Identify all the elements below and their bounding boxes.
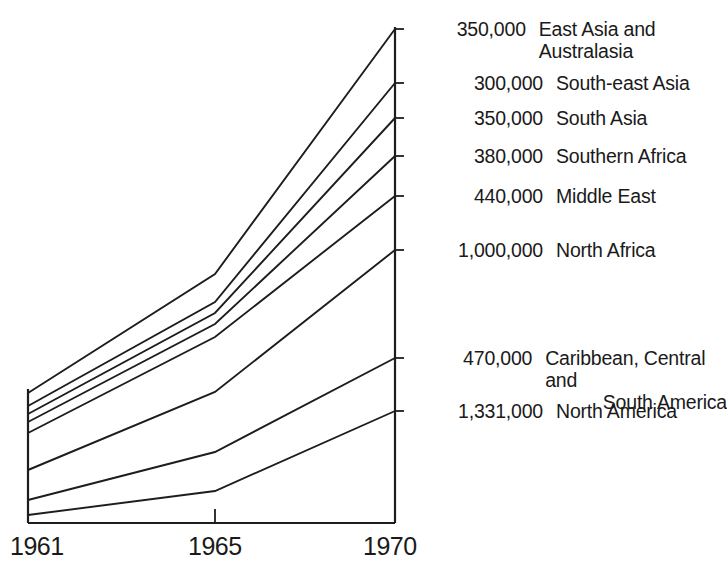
legend-value: 1,331,000 xyxy=(405,400,543,422)
series-line-caribbean-central-and-south-america xyxy=(28,358,395,500)
xtick-label-1961: 1961 xyxy=(10,532,64,560)
legend-label: North America xyxy=(556,400,677,422)
legend-label: South-east Asia xyxy=(556,72,690,94)
series-line-southern-africa xyxy=(28,156,395,422)
legend-row[interactable]: 1,331,000North America xyxy=(405,400,677,422)
legend-label: North Africa xyxy=(556,239,655,261)
legend-label: Middle East xyxy=(556,185,656,207)
legend-value: 440,000 xyxy=(405,185,543,207)
legend-label: Southern Africa xyxy=(556,145,686,167)
legend-label: South Asia xyxy=(556,107,647,129)
legend-value: 1,000,000 xyxy=(405,239,543,261)
series-line-north-africa xyxy=(28,250,395,470)
axes-group xyxy=(28,27,395,523)
legend-value: 380,000 xyxy=(405,145,543,167)
right-axis-tick-group xyxy=(395,29,404,411)
legend-value: 300,000 xyxy=(405,72,543,94)
legend-row[interactable]: 440,000Middle East xyxy=(405,185,656,207)
legend-row[interactable]: 1,000,000North Africa xyxy=(405,239,655,261)
legend-row[interactable]: 350,000East Asia and Australasia xyxy=(405,18,727,62)
series-group xyxy=(28,29,395,515)
legend-value: 470,000 xyxy=(405,347,532,369)
series-line-south-asia xyxy=(28,118,395,414)
legend-value: 350,000 xyxy=(405,18,526,40)
chart-container: 350,000East Asia and Australasia300,000S… xyxy=(0,0,727,583)
legend-row[interactable]: 380,000Southern Africa xyxy=(405,145,686,167)
legend-row[interactable]: 350,000South Asia xyxy=(405,107,647,129)
legend-row[interactable]: 300,000South-east Asia xyxy=(405,72,690,94)
legend-value: 350,000 xyxy=(405,107,543,129)
xtick-label-1965: 1965 xyxy=(188,532,242,560)
xtick-label-1970: 1970 xyxy=(363,532,417,560)
series-line-north-america xyxy=(28,411,395,515)
legend-label: East Asia and Australasia xyxy=(539,18,727,62)
